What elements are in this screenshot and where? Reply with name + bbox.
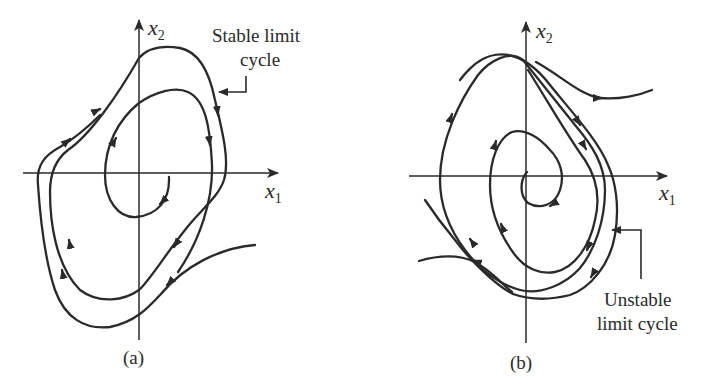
unstable-cycle-pointer	[612, 230, 641, 279]
inner-spiral-b	[490, 70, 598, 273]
phase-portrait-figure: x2 x1 Stable limit cycle (a)	[0, 0, 709, 391]
outer-trajectory-top-b	[536, 62, 652, 98]
incoming-trajectory-bottom-b	[419, 257, 512, 292]
x2-label-b: x2	[535, 18, 553, 46]
inner-spiral-a	[105, 90, 212, 272]
stable-limit-cycle-label-2: cycle	[240, 49, 280, 70]
unstable-limit-cycle-label-2: limit cycle	[597, 313, 678, 334]
caption-a: (a)	[123, 347, 144, 369]
unstable-limit-cycle-label: Unstable	[604, 289, 672, 310]
panel-a: x2 x1 Stable limit cycle (a)	[23, 15, 301, 369]
caption-b: (b)	[510, 352, 532, 374]
x1-label-b: x1	[658, 180, 676, 208]
panel-b: x2 x1 Unstable limit cycle (b)	[409, 18, 678, 374]
stable-limit-cycle-label: Stable limit	[212, 25, 301, 46]
x1-label-a: x1	[264, 178, 282, 206]
x2-label-a: x2	[147, 15, 165, 43]
outer-spiral-a	[38, 115, 255, 327]
stable-cycle-pointer	[219, 76, 246, 92]
